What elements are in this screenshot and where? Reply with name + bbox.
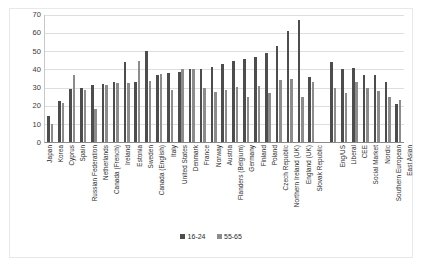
x-axis-tick-label: Russian Federation [91, 145, 97, 201]
bar [167, 73, 170, 142]
x-axis-tick: Northern Ireland (UK) [292, 143, 303, 231]
bar [102, 84, 105, 142]
bar [178, 72, 181, 142]
x-axis-tick: Austria [224, 143, 235, 231]
x-axis-tick-label: Flanders (Belgium) [238, 145, 244, 200]
x-axis-tick-label: Northern Ireland (UK) [294, 145, 300, 207]
legend-item[interactable]: 55-65 [217, 233, 242, 240]
x-axis-tick: Canada (English) [157, 143, 168, 231]
x-axis-tick-label: Eng/US [339, 145, 345, 167]
x-axis-tick: CEE [359, 143, 370, 231]
x-axis-tick: Japan [44, 143, 55, 231]
x-axis-tick-label: Germany [249, 145, 255, 172]
x-axis-tick-label: Liberal [351, 145, 357, 165]
chart-legend: 16-2455-65 [10, 233, 412, 240]
x-axis-tick: Flanders (Belgium) [236, 143, 247, 231]
bar [84, 90, 87, 142]
bar [377, 91, 380, 142]
bar-series-layer [45, 15, 404, 142]
bar [334, 88, 337, 142]
x-axis-tick: Estonia [134, 143, 145, 231]
bar-group [339, 15, 350, 142]
x-axis-tick-label: Canada (French) [114, 145, 120, 194]
bar [171, 90, 174, 142]
x-axis-tick-label: Czech Republic [283, 145, 289, 190]
bar-group [165, 15, 176, 142]
bar [91, 85, 94, 142]
bar [94, 109, 97, 142]
x-axis-tick: Cyprus [67, 143, 78, 231]
x-axis-tick-label: Finland [260, 145, 266, 166]
bar [258, 86, 261, 142]
legend-item[interactable]: 16-24 [180, 233, 205, 240]
bar-group [273, 15, 284, 142]
bar-group [328, 15, 339, 142]
bar-group [78, 15, 89, 142]
x-axis-tick-label: Norway [215, 145, 221, 167]
x-axis-tick: England (UK) [303, 143, 314, 231]
bar [308, 77, 311, 142]
bar-group [45, 15, 56, 142]
bar [385, 82, 388, 142]
x-axis-tick-label: France [204, 145, 210, 165]
bar [330, 62, 333, 142]
bar-group [393, 15, 404, 142]
bar [395, 104, 398, 142]
x-axis-tick: Nordic [382, 143, 393, 231]
bar [145, 51, 148, 142]
x-axis-tick-label: Sweden [148, 145, 154, 168]
y-axis-tick-label: 30 [32, 84, 41, 92]
y-axis-tick-label: 50 [32, 48, 41, 56]
bar-group [99, 15, 110, 142]
bar [268, 93, 271, 142]
bar [80, 88, 83, 142]
x-axis-tick: Liberal [348, 143, 359, 231]
x-axis-tick: Social Market [371, 143, 382, 231]
bar [62, 103, 65, 142]
bar-group [143, 15, 154, 142]
x-axis-tick-label: United States [182, 145, 188, 184]
bar-group [382, 15, 393, 142]
bar-group [284, 15, 295, 142]
bar-group [154, 15, 165, 142]
x-axis-tick: Denmark [190, 143, 201, 231]
bar-group [121, 15, 132, 142]
x-axis-tick: Netherlands [100, 143, 111, 231]
x-axis-tick-label: Social Market [373, 145, 379, 184]
bar [374, 75, 377, 142]
bar [301, 97, 304, 142]
bar [51, 124, 54, 142]
y-axis-tick-label: 10 [32, 121, 41, 129]
x-axis-tick-label: Spain [80, 145, 86, 162]
bar-group [186, 15, 197, 142]
bar [221, 64, 224, 142]
legend-swatch-icon [217, 234, 222, 239]
x-axis-labels: JapanKoreaCyprusSpainRussian FederationN… [44, 143, 416, 231]
plot-region: 706050403020100 [21, 15, 404, 143]
plot-area [44, 15, 404, 143]
bar [192, 69, 195, 142]
bar [355, 82, 358, 142]
x-axis-tick: Germany [247, 143, 258, 231]
bar [200, 69, 203, 142]
bar [298, 20, 301, 142]
x-axis-tick-label: Southern European [396, 145, 402, 201]
bar-group [132, 15, 143, 142]
x-axis-tick: Norway [213, 143, 224, 231]
bar [124, 62, 127, 142]
x-axis-tick: Southern European [393, 143, 404, 231]
bar [211, 67, 214, 142]
bar [254, 57, 257, 142]
bar [138, 61, 141, 142]
bar [247, 97, 250, 142]
y-axis-tick-label: 40 [32, 66, 41, 74]
x-axis-tick: East Asian [405, 143, 416, 231]
y-axis: 706050403020100 [21, 15, 41, 143]
x-axis-tick-label: Netherlands [103, 145, 109, 180]
bar-group [295, 15, 306, 142]
bar-group [197, 15, 208, 142]
bar-group [56, 15, 67, 142]
bar [113, 82, 116, 142]
x-axis-tick: Eng/US [337, 143, 348, 231]
x-axis-tick-label: East Asian [407, 145, 413, 176]
